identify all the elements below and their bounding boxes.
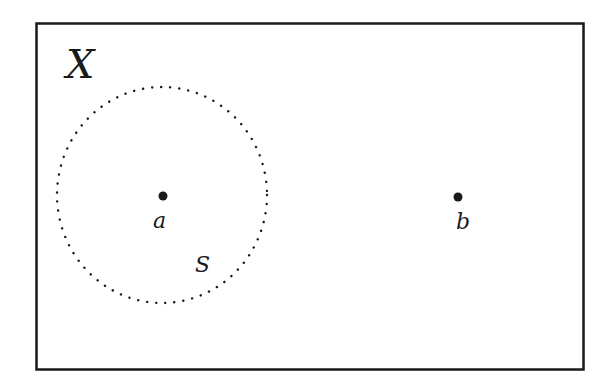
point-b	[454, 193, 463, 202]
set-label: S	[195, 252, 210, 277]
point-a	[159, 192, 168, 201]
point-a-label: a	[153, 208, 166, 233]
space-label: X	[63, 41, 96, 87]
point-b-label: b	[456, 209, 470, 234]
diagram-canvas: X a b S	[0, 0, 616, 387]
space-frame	[37, 24, 584, 370]
